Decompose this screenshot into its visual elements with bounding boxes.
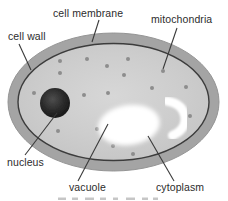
cropped-text-artifact <box>58 198 158 201</box>
organelle-dot <box>58 71 62 75</box>
organelle-dot <box>58 59 62 63</box>
organelle-dot <box>161 69 165 73</box>
organelle-dot <box>106 91 110 95</box>
cell-diagram: cell wall cell membrane mitochondria nuc… <box>0 0 228 200</box>
organelle-dot <box>131 152 135 156</box>
organelle-dot <box>56 129 60 133</box>
label-cell-membrane: cell membrane <box>53 7 123 19</box>
label-vacuole: vacuole <box>69 181 106 193</box>
organelle-dot <box>122 73 126 77</box>
organelle-dot <box>105 64 109 68</box>
label-mitochondria: mitochondria <box>151 13 212 25</box>
organelle-dot <box>126 57 130 61</box>
label-cytoplasm: cytoplasm <box>156 181 204 193</box>
nucleus-shape <box>40 88 70 118</box>
organelle-dot <box>184 85 188 89</box>
label-nucleus: nucleus <box>7 156 44 168</box>
organelle-dot <box>150 86 154 90</box>
organelle-dot <box>111 144 115 148</box>
organelle-dot <box>82 93 86 97</box>
label-cell-wall: cell wall <box>8 30 46 42</box>
organelle-dot <box>32 91 36 95</box>
organelle-dot <box>85 57 89 61</box>
